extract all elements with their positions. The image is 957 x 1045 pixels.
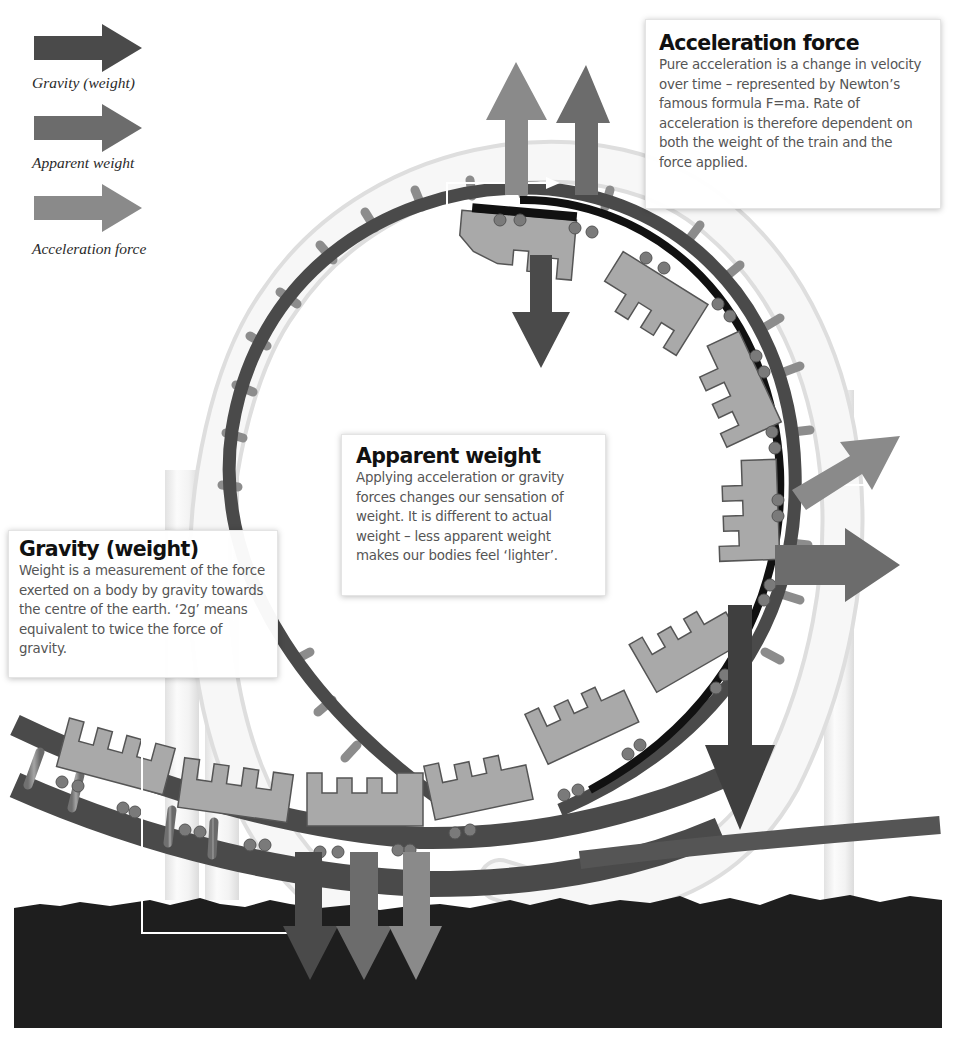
legend-label: Acceleration force (32, 240, 146, 258)
ground (14, 894, 942, 1028)
callout-gravity-weight: Gravity (weight) Weight is a measurement… (8, 530, 278, 678)
arrow-right-icon (34, 24, 144, 72)
legend-label: Gravity (weight) (32, 74, 135, 92)
legend: Gravity (weight) Apparent weight Acceler… (30, 22, 200, 262)
car-top (457, 202, 577, 280)
car-lower-right-2 (525, 672, 639, 764)
callout-title: Apparent weight (356, 445, 595, 468)
callout-apparent-weight: Apparent weight Applying acceleration or… (341, 434, 606, 596)
callout-body: Weight is a measurement of the force exe… (19, 561, 267, 659)
legend-item-gravity: Gravity (weight) (30, 22, 200, 102)
callout-acceleration-force: Acceleration force Pure acceleration is … (645, 19, 941, 209)
callout-body: Pure acceleration is a change in velocit… (659, 55, 928, 173)
legend-item-acceleration-force: Acceleration force (30, 182, 200, 262)
car-lower-right-3 (424, 745, 533, 820)
car-right-2 (716, 459, 779, 561)
arrow-right-icon (34, 104, 144, 152)
car-bottom (307, 773, 423, 826)
callout-title: Gravity (weight) (19, 538, 267, 561)
callout-body: Applying acceleration or gravity forces … (356, 468, 595, 566)
legend-label: Apparent weight (32, 154, 134, 172)
callout-title: Acceleration force (659, 32, 928, 55)
arrow-right-icon (34, 184, 144, 232)
legend-item-apparent-weight: Apparent weight (30, 102, 200, 182)
